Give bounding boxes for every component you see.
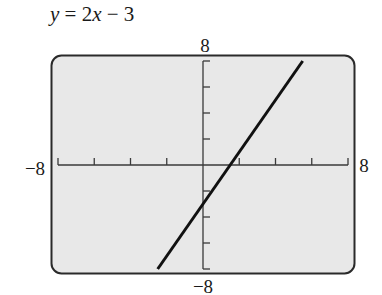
x-max-label: 8 (359, 156, 369, 175)
x-min-label: −8 (25, 159, 45, 178)
y-min-label: −8 (193, 277, 213, 295)
graphing-calculator-screen (0, 0, 382, 295)
y-max-label: 8 (200, 36, 210, 55)
